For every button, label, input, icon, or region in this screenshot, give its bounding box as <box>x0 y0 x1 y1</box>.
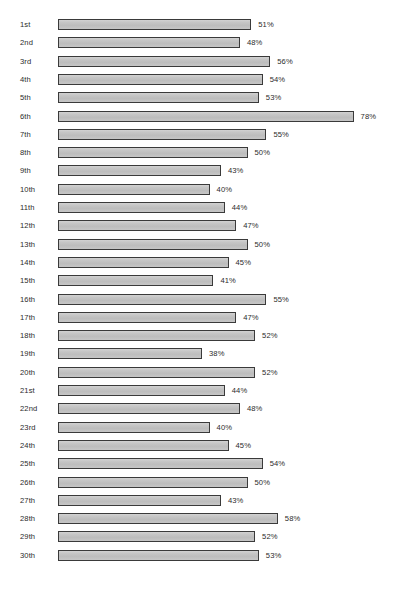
chart-row: 16th55% <box>0 293 405 306</box>
bar <box>58 129 266 140</box>
chart-row: 8th50% <box>0 146 405 159</box>
category-label: 20th <box>20 366 35 379</box>
category-label: 23rd <box>20 421 36 434</box>
value-label: 55% <box>273 128 289 141</box>
value-label: 43% <box>228 164 244 177</box>
value-label: 56% <box>277 55 293 68</box>
bar <box>58 111 354 122</box>
chart-row: 9th43% <box>0 164 405 177</box>
chart-row: 15th41% <box>0 274 405 287</box>
value-label: 52% <box>262 530 278 543</box>
bar-track <box>58 147 248 158</box>
category-label: 28th <box>20 512 35 525</box>
bar <box>58 275 213 286</box>
bar-track <box>58 348 202 359</box>
bar <box>58 92 259 103</box>
bar <box>58 513 278 524</box>
value-label: 54% <box>270 73 286 86</box>
chart-row: 10th40% <box>0 183 405 196</box>
category-label: 1st <box>20 18 30 31</box>
bar-track <box>58 385 225 396</box>
horizontal-bar-chart: 1st51%2nd48%3rd56%4th54%5th53%6th78%7th5… <box>0 0 405 591</box>
category-label: 12th <box>20 219 35 232</box>
value-label: 48% <box>247 36 263 49</box>
chart-row: 6th78% <box>0 110 405 123</box>
value-label: 54% <box>270 457 286 470</box>
bar <box>58 550 259 561</box>
bar-track <box>58 37 240 48</box>
bar <box>58 220 236 231</box>
bar-track <box>58 477 248 488</box>
bar <box>58 294 266 305</box>
category-label: 8th <box>20 146 31 159</box>
value-label: 47% <box>243 311 259 324</box>
bar-track <box>58 550 259 561</box>
category-label: 19th <box>20 347 35 360</box>
category-label: 27th <box>20 494 35 507</box>
bar <box>58 19 251 30</box>
bar-track <box>58 56 270 67</box>
bar-track <box>58 367 255 378</box>
chart-row: 22nd48% <box>0 402 405 415</box>
bar <box>58 367 255 378</box>
category-label: 24th <box>20 439 35 452</box>
bar-track <box>58 403 240 414</box>
category-label: 18th <box>20 329 35 342</box>
category-label: 22nd <box>20 402 37 415</box>
category-label: 10th <box>20 183 35 196</box>
chart-row: 24th45% <box>0 439 405 452</box>
bar <box>58 477 248 488</box>
bar <box>58 165 221 176</box>
category-label: 3rd <box>20 55 31 68</box>
chart-row: 21st44% <box>0 384 405 397</box>
bar <box>58 495 221 506</box>
bar-track <box>58 19 251 30</box>
bar <box>58 56 270 67</box>
bar-track <box>58 129 266 140</box>
value-label: 40% <box>217 183 233 196</box>
category-label: 16th <box>20 293 35 306</box>
bar <box>58 531 255 542</box>
bar <box>58 202 225 213</box>
value-label: 50% <box>255 476 271 489</box>
value-label: 44% <box>232 384 248 397</box>
value-label: 44% <box>232 201 248 214</box>
bar-track <box>58 220 236 231</box>
category-label: 15th <box>20 274 35 287</box>
bar-track <box>58 165 221 176</box>
bar-track <box>58 74 263 85</box>
category-label: 11th <box>20 201 35 214</box>
bar-track <box>58 312 236 323</box>
bar-track <box>58 330 255 341</box>
value-label: 45% <box>236 439 252 452</box>
chart-row: 29th52% <box>0 530 405 543</box>
bar <box>58 147 248 158</box>
value-label: 52% <box>262 366 278 379</box>
value-label: 53% <box>266 549 282 562</box>
bar <box>58 184 210 195</box>
category-label: 6th <box>20 110 31 123</box>
chart-row: 5th53% <box>0 91 405 104</box>
category-label: 26th <box>20 476 35 489</box>
category-label: 7th <box>20 128 31 141</box>
value-label: 40% <box>217 421 233 434</box>
chart-row: 2nd48% <box>0 36 405 49</box>
chart-row: 14th45% <box>0 256 405 269</box>
value-label: 41% <box>220 274 236 287</box>
value-label: 38% <box>209 347 225 360</box>
category-label: 30th <box>20 549 35 562</box>
category-label: 21st <box>20 384 35 397</box>
chart-row: 18th52% <box>0 329 405 342</box>
bar-track <box>58 513 278 524</box>
bar-track <box>58 531 255 542</box>
value-label: 48% <box>247 402 263 415</box>
value-label: 78% <box>361 110 377 123</box>
bar-track <box>58 92 259 103</box>
bar-track <box>58 422 210 433</box>
bar-track <box>58 202 225 213</box>
chart-row: 28th58% <box>0 512 405 525</box>
bar <box>58 403 240 414</box>
bar <box>58 385 225 396</box>
bar <box>58 440 229 451</box>
category-label: 14th <box>20 256 35 269</box>
